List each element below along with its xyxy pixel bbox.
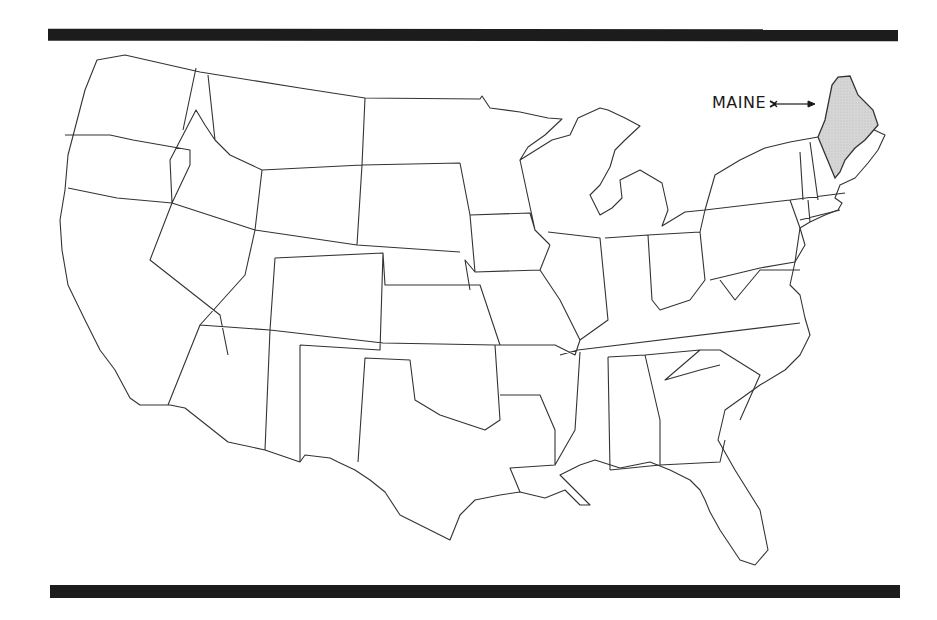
us-map (0, 0, 937, 620)
maine-callout-label: MAINE (712, 93, 766, 112)
state-borders (65, 68, 845, 492)
us-outline (60, 55, 885, 565)
maine-state (818, 76, 878, 178)
bottom-rule-bar (50, 585, 900, 598)
right-arrow-icon (770, 101, 815, 107)
